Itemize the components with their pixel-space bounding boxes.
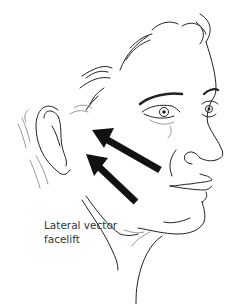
lower-arrow-icon bbox=[86, 154, 136, 202]
ear bbox=[18, 106, 70, 188]
face-illustration bbox=[0, 0, 236, 304]
eyes bbox=[140, 89, 218, 138]
caption-line-1: Lateral vector bbox=[44, 218, 117, 232]
hair-strokes bbox=[70, 14, 210, 114]
figure-caption: Lateral vector facelift bbox=[44, 218, 117, 246]
vector-arrows bbox=[86, 128, 160, 202]
caption-line-2: facelift bbox=[44, 232, 117, 246]
